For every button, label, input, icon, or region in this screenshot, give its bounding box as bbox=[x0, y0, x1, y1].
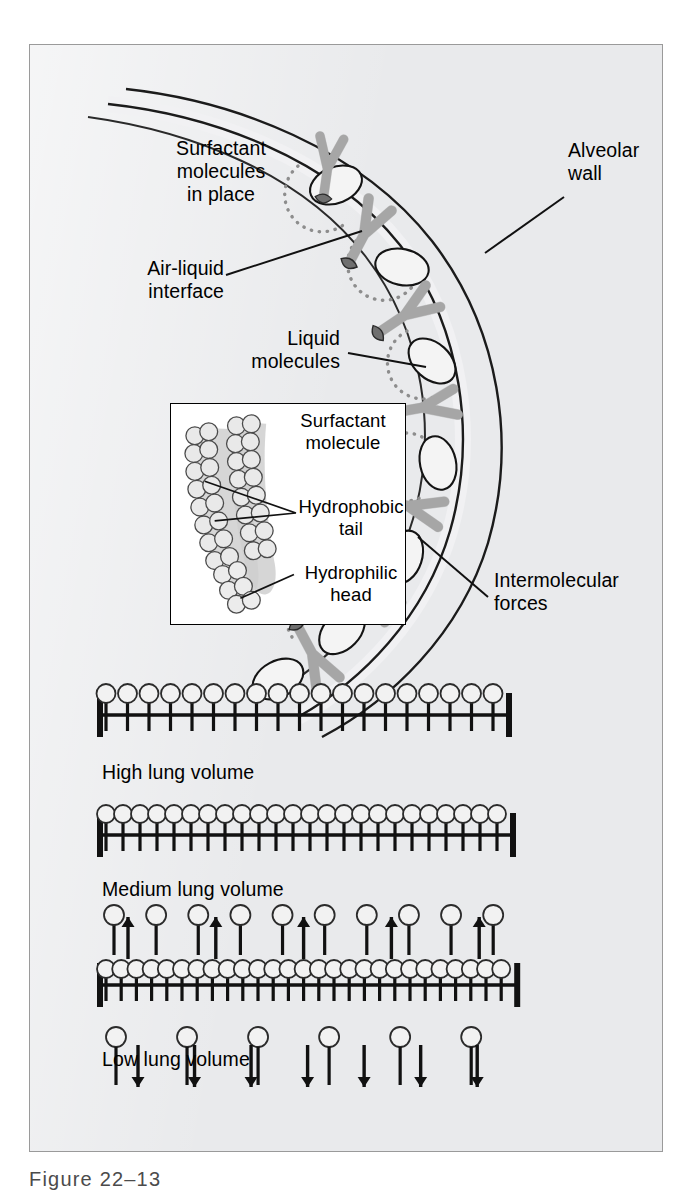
row-label-high: High lung volume bbox=[102, 761, 254, 784]
row-label-low: Low lung volume bbox=[102, 1048, 250, 1071]
row-label-medium: Medium lung volume bbox=[102, 878, 284, 901]
figure-panel: Surfactant molecules in place Alveolar w… bbox=[29, 44, 663, 1152]
lung-volume-rows bbox=[30, 45, 663, 1152]
figure-caption: Figure 22–13 bbox=[29, 1168, 429, 1202]
